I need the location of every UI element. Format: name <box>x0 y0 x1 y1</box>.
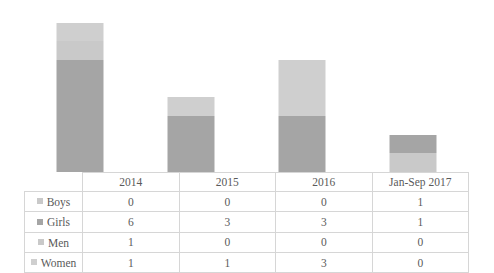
bar-stack <box>389 135 436 172</box>
legend-swatch-men-icon <box>38 239 44 245</box>
legend-swatch-boys-icon <box>37 198 43 204</box>
legend-cell-boys: Boys <box>25 192 83 212</box>
legend-cell-girls: Girls <box>25 212 83 232</box>
column-header-2015: 2015 <box>179 173 276 192</box>
bar-segment-girls <box>167 116 214 172</box>
cell-boys-2017: 1 <box>372 192 469 212</box>
cell-girls-2014: 6 <box>83 212 180 232</box>
bar-segment-women <box>56 23 103 42</box>
table-row: Women 1 1 3 0 <box>25 253 469 273</box>
table-body: Boys 0 0 0 1 Girls 6 3 3 1 Men 1 <box>25 192 469 273</box>
cell-girls-2016: 3 <box>276 212 373 232</box>
bar-segment-women <box>278 60 325 116</box>
legend-swatch-women-icon <box>31 259 37 265</box>
cell-boys-2016: 0 <box>276 192 373 212</box>
cell-men-2017: 0 <box>372 232 469 252</box>
table-row: Men 1 0 0 0 <box>25 232 469 252</box>
cell-men-2014: 1 <box>83 232 180 252</box>
cell-women-2014: 1 <box>83 253 180 273</box>
column-group-2015 <box>135 4 246 172</box>
bar-segment-girls <box>278 116 325 172</box>
column-header-2014: 2014 <box>83 173 180 192</box>
cell-girls-2017: 1 <box>372 212 469 232</box>
column-header-2017: Jan-Sep 2017 <box>372 173 469 192</box>
bar-segment-women <box>167 97 214 116</box>
column-group-jan-sep-2017 <box>357 4 468 172</box>
table-row: Boys 0 0 0 1 <box>25 192 469 212</box>
cell-women-2016: 3 <box>276 253 373 273</box>
bar-segment-girls <box>56 60 103 172</box>
legend-label-girls: Girls <box>47 217 70 229</box>
table-header-row: 2014 2015 2016 Jan-Sep 2017 <box>25 173 469 192</box>
cell-girls-2015: 3 <box>179 212 276 232</box>
cell-boys-2014: 0 <box>83 192 180 212</box>
cell-women-2015: 1 <box>179 253 276 273</box>
legend-label-men: Men <box>48 237 69 249</box>
chart-data-table: 2014 2015 2016 Jan-Sep 2017 Boys 0 0 0 1… <box>24 172 469 273</box>
cell-men-2016: 0 <box>276 232 373 252</box>
table-row: Girls 6 3 3 1 <box>25 212 469 232</box>
bar-segment-men <box>56 41 103 60</box>
chart-plot-area <box>24 4 468 172</box>
column-group-2014 <box>24 4 135 172</box>
bar-stack <box>167 97 214 172</box>
bar-stack <box>278 60 325 172</box>
legend-label-boys: Boys <box>47 196 71 208</box>
bar-segment-boys <box>389 153 436 172</box>
cell-boys-2015: 0 <box>179 192 276 212</box>
column-group-2016 <box>246 4 357 172</box>
legend-label-women: Women <box>41 257 76 269</box>
legend-cell-women: Women <box>25 253 83 273</box>
legend-cell-men: Men <box>25 232 83 252</box>
table-corner-cell <box>25 173 83 192</box>
bar-stack <box>56 23 103 172</box>
column-header-2016: 2016 <box>276 173 373 192</box>
legend-swatch-girls-icon <box>37 219 43 225</box>
bar-segment-girls <box>389 135 436 154</box>
cell-men-2015: 0 <box>179 232 276 252</box>
cell-women-2017: 0 <box>372 253 469 273</box>
